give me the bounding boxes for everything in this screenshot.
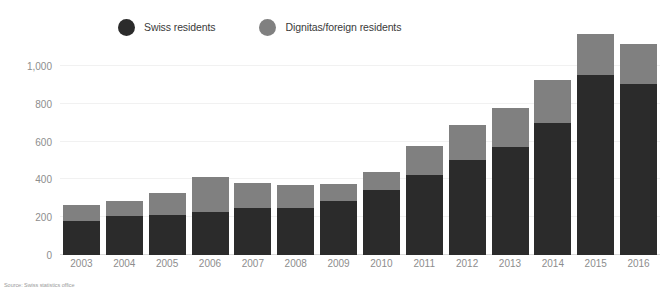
bar-segment-dignitas-foreign-residents[interactable]	[234, 183, 271, 208]
bar-group[interactable]	[149, 193, 186, 255]
bar-segment-dignitas-foreign-residents[interactable]	[277, 185, 314, 208]
x-axis-tick-label: 2010	[360, 258, 403, 269]
bar-segment-swiss-residents[interactable]	[277, 208, 314, 255]
x-axis-tick-label: 2009	[317, 258, 360, 269]
x-axis-tick-label: 2003	[60, 258, 103, 269]
bar-segment-dignitas-foreign-residents[interactable]	[492, 108, 529, 148]
bar-segment-dignitas-foreign-residents[interactable]	[534, 80, 571, 123]
bar-segment-dignitas-foreign-residents[interactable]	[106, 201, 143, 216]
bar-segment-dignitas-foreign-residents[interactable]	[192, 177, 229, 211]
x-axis: 2003200420052006200720082009201020112012…	[60, 258, 660, 274]
bar-group[interactable]	[277, 185, 314, 255]
bar-group[interactable]	[234, 183, 271, 255]
bar-segment-swiss-residents[interactable]	[363, 190, 400, 255]
bar-group[interactable]	[63, 205, 100, 255]
assisted-suicide-bar-chart: Swiss residents Dignitas/foreign residen…	[0, 0, 665, 302]
x-axis-tick-label: 2016	[617, 258, 660, 269]
legend-item-dignitas-foreign-residents: Dignitas/foreign residents	[259, 19, 401, 36]
bar-segment-dignitas-foreign-residents[interactable]	[577, 34, 614, 76]
bar-group[interactable]	[363, 172, 400, 255]
bar-segment-dignitas-foreign-residents[interactable]	[449, 125, 486, 159]
bar-segment-dignitas-foreign-residents[interactable]	[63, 205, 100, 221]
bar-segment-swiss-residents[interactable]	[620, 84, 657, 255]
x-axis-tick-label: 2005	[146, 258, 189, 269]
y-axis: 02004006008001,000	[0, 47, 52, 255]
x-axis-tick-label: 2008	[274, 258, 317, 269]
bar-segment-swiss-residents[interactable]	[192, 212, 229, 255]
bar-segment-swiss-residents[interactable]	[406, 175, 443, 255]
bar-group[interactable]	[620, 44, 657, 255]
bar-group[interactable]	[534, 80, 571, 255]
bar-segment-swiss-residents[interactable]	[63, 221, 100, 255]
y-axis-tick-label: 200	[35, 212, 52, 223]
bar-segment-dignitas-foreign-residents[interactable]	[320, 184, 357, 201]
source-note: Source: Swiss statistics office	[4, 282, 75, 288]
chart-legend: Swiss residents Dignitas/foreign residen…	[118, 16, 401, 38]
x-axis-tick-label: 2014	[531, 258, 574, 269]
circle-icon	[118, 19, 135, 36]
bar-segment-swiss-residents[interactable]	[234, 208, 271, 255]
bar-group[interactable]	[577, 34, 614, 255]
bar-segment-swiss-residents[interactable]	[106, 216, 143, 255]
bar-segment-dignitas-foreign-residents[interactable]	[406, 146, 443, 174]
y-axis-tick-label: 0	[46, 250, 52, 261]
legend-label: Dignitas/foreign residents	[285, 21, 401, 33]
bar-group[interactable]	[320, 184, 357, 255]
bar-segment-dignitas-foreign-residents[interactable]	[363, 172, 400, 190]
bar-segment-swiss-residents[interactable]	[492, 147, 529, 255]
x-axis-tick-label: 2004	[103, 258, 146, 269]
bar-group[interactable]	[449, 125, 486, 255]
bar-segment-swiss-residents[interactable]	[320, 201, 357, 255]
x-axis-tick-label: 2015	[574, 258, 617, 269]
x-axis-tick-label: 2007	[231, 258, 274, 269]
bar-segment-swiss-residents[interactable]	[149, 215, 186, 255]
bar-group[interactable]	[106, 201, 143, 255]
x-axis-tick-label: 2011	[403, 258, 446, 269]
bar-segment-swiss-residents[interactable]	[449, 160, 486, 255]
y-axis-tick-label: 600	[35, 136, 52, 147]
bar-segment-dignitas-foreign-residents[interactable]	[149, 193, 186, 216]
bar-group[interactable]	[406, 146, 443, 255]
x-axis-tick-label: 2013	[489, 258, 532, 269]
bar-series-container	[60, 47, 660, 255]
y-axis-tick-label: 400	[35, 174, 52, 185]
legend-item-swiss-residents: Swiss residents	[118, 19, 215, 36]
legend-label: Swiss residents	[144, 21, 215, 33]
circle-icon	[259, 19, 276, 36]
bar-segment-swiss-residents[interactable]	[534, 123, 571, 255]
bar-segment-swiss-residents[interactable]	[577, 75, 614, 255]
bar-group[interactable]	[492, 108, 529, 255]
x-axis-tick-label: 2012	[446, 258, 489, 269]
y-axis-tick-label: 1,000	[27, 60, 52, 71]
bar-group[interactable]	[192, 177, 229, 255]
x-axis-tick-label: 2006	[189, 258, 232, 269]
bar-segment-dignitas-foreign-residents[interactable]	[620, 44, 657, 84]
y-axis-tick-label: 800	[35, 98, 52, 109]
